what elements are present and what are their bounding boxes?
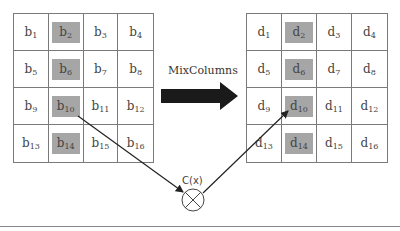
cell-label: d15	[320, 133, 348, 154]
input_state-cell-b16: b16	[118, 125, 153, 162]
cell-label: d13	[250, 133, 278, 154]
cell-base: b	[59, 62, 67, 76]
cell-subscript: 3	[102, 31, 107, 40]
cell-base: b	[94, 62, 102, 76]
cell-label: b6	[52, 59, 80, 80]
cell-label: d10	[285, 96, 313, 117]
cell-subscript: 2	[67, 31, 72, 40]
cell-subscript: 6	[67, 68, 72, 77]
cell-label: b9	[17, 96, 45, 117]
cell-label: b12	[122, 96, 150, 117]
input_state-cell-b14: b14	[49, 125, 84, 162]
cell-subscript: 6	[300, 68, 305, 77]
cell-label: b13	[17, 133, 45, 154]
input_state-cell-b12: b12	[118, 88, 153, 125]
cell-subscript: 8	[137, 68, 142, 77]
cell-label: d16	[356, 133, 384, 154]
output_state-cell-d6: d6	[282, 51, 317, 88]
input_state-cell-b10: b10	[49, 88, 84, 125]
cell-label: d9	[250, 96, 278, 117]
input_state-cell-b9: b9	[14, 88, 49, 125]
cell-subscript: 7	[102, 68, 107, 77]
cell-subscript: 1	[32, 31, 37, 40]
cell-label: d14	[285, 133, 313, 154]
cell-label: d3	[320, 22, 348, 43]
cell-subscript: 12	[368, 105, 378, 114]
output_state-cell-d2: d2	[282, 14, 317, 51]
cell-subscript: 14	[298, 142, 308, 151]
input_state-cell-b6: b6	[49, 51, 84, 88]
output_state-cell-d9: d9	[247, 88, 282, 125]
cell-label: d2	[285, 22, 313, 43]
output_state-cell-d8: d8	[352, 51, 387, 88]
input_state-cell-b11: b11	[84, 88, 119, 125]
cell-subscript: 12	[134, 105, 144, 114]
cell-subscript: 9	[32, 105, 37, 114]
cell-label: d1	[250, 22, 278, 43]
cell-subscript: 13	[30, 142, 40, 151]
cell-subscript: 3	[335, 31, 340, 40]
cell-subscript: 10	[298, 105, 308, 114]
cell-base: d	[363, 25, 371, 39]
output_state-cell-d16: d16	[352, 125, 387, 162]
cell-label: b15	[86, 133, 114, 154]
output_state-cell-d3: d3	[317, 14, 352, 51]
cell-subscript: 4	[371, 31, 376, 40]
output_state-cell-d13: d13	[247, 125, 282, 162]
cell-base: b	[129, 62, 137, 76]
input_state-cell-b15: b15	[84, 125, 119, 162]
cell-label: b7	[86, 59, 114, 80]
output_state-cell-d14: d14	[282, 125, 317, 162]
cell-subscript: 14	[64, 142, 74, 151]
cell-label: b4	[122, 22, 150, 43]
input_state-cell-b3: b3	[84, 14, 119, 51]
cell-base: b	[59, 25, 67, 39]
cell-label: d8	[356, 59, 384, 80]
cell-subscript: 5	[32, 68, 37, 77]
cell-label: b3	[86, 22, 114, 43]
input_state-cell-b13: b13	[14, 125, 49, 162]
output_state-cell-d15: d15	[317, 125, 352, 162]
mixcolumns-label: MixColumns	[168, 64, 238, 77]
input_state-cell-b7: b7	[84, 51, 119, 88]
cell-base: d	[290, 99, 298, 113]
output-state-matrix: d1d2d3d4d5d6d7d8d9d10d11d12d13d14d15d16	[246, 13, 388, 163]
output_state-cell-d5: d5	[247, 51, 282, 88]
output_state-cell-d4: d4	[352, 14, 387, 51]
cell-subscript: 5	[265, 68, 270, 77]
cell-subscript: 2	[300, 31, 305, 40]
cell-base: d	[363, 62, 371, 76]
cell-base: d	[255, 136, 263, 150]
cell-label: d12	[356, 96, 384, 117]
function-label: C(x)	[182, 175, 203, 186]
cell-label: b8	[122, 59, 150, 80]
input_state-cell-b1: b1	[14, 14, 49, 51]
output_state-cell-d7: d7	[317, 51, 352, 88]
cell-base: b	[94, 25, 102, 39]
input_state-cell-b2: b2	[49, 14, 84, 51]
cell-label: d5	[250, 59, 278, 80]
output_state-cell-d12: d12	[352, 88, 387, 125]
cell-label: b11	[86, 96, 114, 117]
multiply-circle-icon	[182, 189, 204, 211]
input_state-cell-b8: b8	[118, 51, 153, 88]
cell-base: d	[290, 136, 298, 150]
cell-base: d	[325, 136, 333, 150]
cell-label: b10	[52, 96, 80, 117]
input_state-cell-b4: b4	[118, 14, 153, 51]
mixcolumns-arrow-icon	[161, 82, 238, 110]
cell-base: b	[129, 25, 137, 39]
cell-subscript: 11	[333, 105, 343, 114]
cell-label: b1	[17, 22, 45, 43]
cell-base: b	[91, 136, 99, 150]
cell-label: b2	[52, 22, 80, 43]
cell-subscript: 10	[64, 105, 74, 114]
cell-subscript: 9	[265, 105, 270, 114]
cell-subscript: 15	[333, 142, 343, 151]
cell-label: d11	[320, 96, 348, 117]
cell-base: b	[91, 99, 99, 113]
cell-subscript: 1	[265, 31, 270, 40]
input-state-matrix: b1b2b3b4b5b6b7b8b9b10b11b12b13b14b15b16	[13, 13, 154, 163]
cell-subscript: 13	[263, 142, 273, 151]
cell-label: b16	[122, 133, 150, 154]
